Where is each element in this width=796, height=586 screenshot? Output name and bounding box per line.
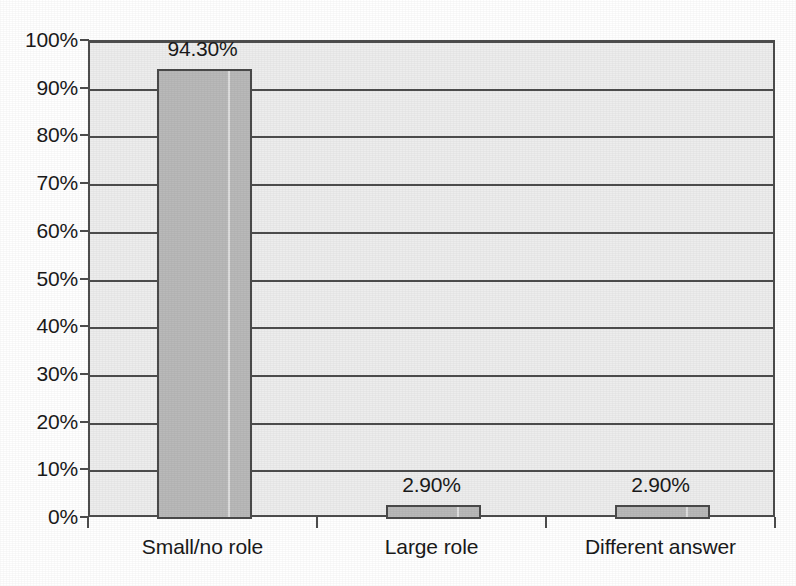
y-axis-tick-label: 0% [8, 505, 78, 529]
bar [615, 505, 710, 519]
y-axis-tick-label: 80% [8, 123, 78, 147]
y-axis-tick [80, 87, 89, 89]
y-axis-tick [80, 468, 89, 470]
y-axis-tick-label: 60% [8, 219, 78, 243]
bar-value-label: 2.90% [342, 473, 522, 497]
plot-area [88, 40, 775, 517]
y-axis-tick-label: 90% [8, 76, 78, 100]
y-axis-tick [80, 373, 89, 375]
x-axis-tick [545, 517, 547, 528]
y-axis-tick-label: 50% [8, 267, 78, 291]
y-axis-tick [80, 230, 89, 232]
bar-highlight [227, 71, 230, 517]
y-axis-tick [80, 134, 89, 136]
y-axis-tick-label: 100% [8, 28, 78, 52]
y-axis-tick [80, 182, 89, 184]
bar-chart: 0%10%20%30%40%50%60%70%80%90%100% Small/… [0, 0, 796, 586]
x-axis-tick [774, 517, 776, 528]
y-axis-tick [80, 421, 89, 423]
x-axis-tick [87, 517, 89, 528]
y-axis-tick-label: 70% [8, 171, 78, 195]
bar-highlight [456, 507, 459, 517]
y-axis-tick [80, 39, 89, 41]
x-axis-category-label: Large role [317, 535, 546, 559]
y-axis-tick-label: 40% [8, 314, 78, 338]
y-axis-tick [80, 278, 89, 280]
y-axis-tick-label: 30% [8, 362, 78, 386]
x-axis-tick [316, 517, 318, 528]
y-axis-tick [80, 325, 89, 327]
bar-value-label: 2.90% [571, 473, 751, 497]
bar [157, 69, 252, 519]
y-axis-tick-label: 20% [8, 410, 78, 434]
bar-highlight [685, 507, 688, 517]
y-axis-tick-label: 10% [8, 457, 78, 481]
bar-value-label: 94.30% [113, 37, 293, 61]
bar [386, 505, 481, 519]
x-axis-category-label: Different answer [546, 535, 775, 559]
x-axis-category-label: Small/no role [88, 535, 317, 559]
